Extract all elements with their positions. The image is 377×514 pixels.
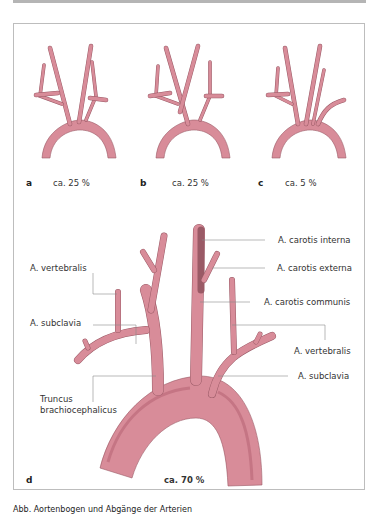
panel-d-vessels: [78, 230, 272, 486]
label-carotis-interna: A. carotis interna: [278, 235, 351, 245]
panel-b-letter: b: [140, 178, 146, 188]
label-vertebralis-left: A. vertebralis: [30, 263, 87, 273]
panel-a-vessels: [36, 46, 116, 158]
label-carotis-externa: A. carotis externa: [277, 263, 352, 273]
label-truncus-line2: brachiocephalicus: [40, 405, 117, 415]
label-subclavia-left: A. subclavia: [30, 318, 81, 328]
panel-c-letter: c: [258, 178, 263, 188]
panel-c-percentage: ca. 5 %: [285, 178, 316, 188]
panel-a-percentage: ca. 25 %: [53, 178, 90, 188]
label-vertebralis-right: A. vertebralis: [294, 346, 351, 356]
panel-c-vessels: [268, 46, 346, 158]
panel-d-percentage: ca. 70 %: [164, 475, 204, 485]
label-truncus-line1: Truncus: [40, 394, 73, 404]
label-carotis-communis: A. carotis communis: [264, 297, 350, 307]
panel-b-percentage: ca. 25 %: [172, 178, 209, 188]
panel-a-letter: a: [26, 178, 32, 188]
panel-d-letter: d: [26, 475, 32, 485]
panel-b-vessels: [150, 46, 230, 158]
label-subclavia-right: A. subclavia: [298, 371, 349, 381]
figure-caption: Abb. Aortenbogen und Abgänge der Arterie…: [13, 505, 192, 514]
